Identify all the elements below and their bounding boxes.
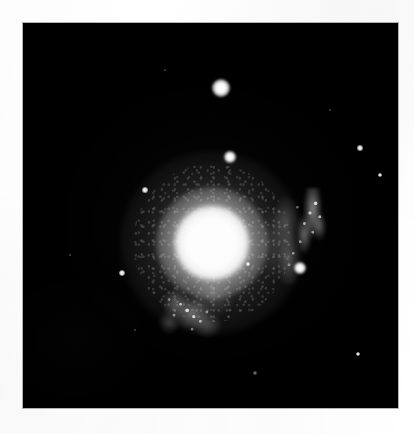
star-far-east-upper (357, 145, 362, 150)
galaxy (23, 23, 398, 408)
astronomical-image-plate (23, 23, 398, 408)
star-core-knot (246, 262, 249, 265)
star-north-mid (224, 151, 236, 163)
star-south (253, 371, 256, 374)
star-east (294, 262, 306, 274)
star-north-bright (212, 79, 230, 97)
star-northwest (142, 187, 147, 192)
galaxy-granular-texture (133, 164, 291, 322)
